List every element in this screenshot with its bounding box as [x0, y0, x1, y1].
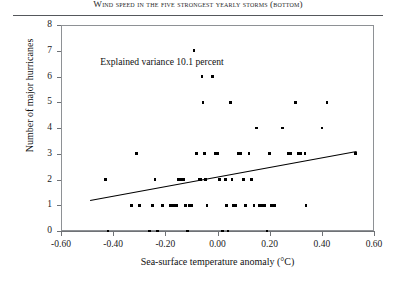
x-tick-mark	[322, 232, 323, 236]
x-tick-mark	[61, 232, 62, 236]
x-tick-label: -0.20	[143, 240, 187, 250]
y-tick-label: 1	[34, 200, 52, 210]
x-tick-mark	[165, 232, 166, 236]
x-tick-label: 0.00	[196, 240, 240, 250]
y-tick-label: 4	[34, 123, 52, 133]
y-tick-mark	[57, 180, 61, 181]
x-tick-mark	[270, 232, 271, 236]
y-tick-mark	[57, 51, 61, 52]
x-tick-label: 0.40	[300, 240, 344, 250]
y-tick-label: 5	[34, 97, 52, 107]
header-rule	[13, 15, 383, 16]
x-tick-label: -0.40	[91, 240, 135, 250]
x-tick-mark	[218, 232, 219, 236]
x-axis-title: Sea-surface temperature anomaly (°C)	[61, 256, 374, 267]
y-tick-label: 3	[34, 149, 52, 159]
explained-variance-annotation: Explained variance 10.1 percent	[100, 56, 224, 67]
x-tick-label: 0.20	[248, 240, 292, 250]
y-tick-mark	[57, 102, 61, 103]
x-tick-label: -0.60	[39, 240, 83, 250]
x-tick-label: 0.60	[352, 240, 396, 250]
y-tick-label: 7	[34, 46, 52, 56]
x-tick-mark	[113, 232, 114, 236]
figure-scatter-hurricanes: Wind speed in the five strongest yearly …	[0, 0, 396, 291]
y-tick-mark	[57, 205, 61, 206]
y-tick-label: 2	[34, 175, 52, 185]
y-tick-label: 8	[34, 20, 52, 30]
x-tick-mark	[374, 232, 375, 236]
y-tick-label: 0	[34, 226, 52, 236]
y-axis-title: Number of major hurricanes	[24, 1, 35, 191]
y-tick-label: 6	[34, 72, 52, 82]
y-tick-mark	[57, 128, 61, 129]
y-tick-mark	[57, 77, 61, 78]
y-tick-mark	[57, 25, 61, 26]
y-tick-mark	[57, 154, 61, 155]
running-header-title: Wind speed in the five strongest yearly …	[0, 0, 396, 9]
